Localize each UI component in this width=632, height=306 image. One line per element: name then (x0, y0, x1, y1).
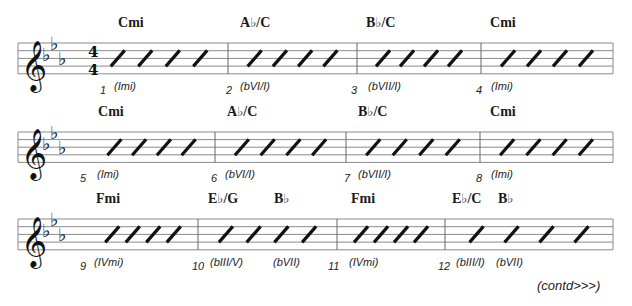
chord-symbol: Cmi (490, 104, 516, 119)
roman-numeral-analysis: (IVmi) (349, 256, 379, 268)
measure-number: 11 (328, 260, 339, 272)
measure-number: 12 (438, 260, 450, 272)
measure-9: Fmi9(IVmi) (80, 191, 181, 272)
chord-symbol: B♭/C (366, 15, 395, 30)
measure-8: Cmi8(Imi) (476, 104, 593, 184)
roman-numeral-analysis: (Imi) (97, 168, 119, 180)
chord-symbol: Cmi (490, 15, 516, 30)
measure-2: A♭/C2(bVI/I) (225, 15, 337, 96)
roman-numeral-analysis: (Imi) (114, 80, 136, 92)
measure-number: 4 (476, 84, 482, 96)
roman-numeral-analysis: (bVII) (273, 256, 300, 268)
chord-symbol: A♭/C (240, 15, 270, 30)
measure-1: Cmi1(Imi) (100, 15, 207, 96)
roman-numeral-analysis: (bVII/I) (368, 80, 401, 92)
roman-numeral-analysis: (bVII/I) (358, 168, 391, 180)
measure-7: B♭/C7(bVII/I) (344, 104, 460, 184)
roman-numeral-analysis: (bVI/I) (225, 168, 255, 180)
key-signature-flat-icon: ♭ (58, 137, 67, 158)
measure-11: Fmi11(IVmi) (328, 191, 428, 272)
time-signature-top: 4 (88, 43, 98, 61)
measure-number: 10 (192, 260, 205, 272)
roman-numeral-analysis: (Imi) (491, 168, 513, 180)
measure-number: 6 (211, 172, 218, 184)
measure-number: 2 (225, 84, 232, 96)
staff-system: 𝄞♭♭♭Fmi9(IVmi)E♭/GB♭10(bIII/V)(bVII)Fmi1… (18, 191, 613, 272)
chord-symbol: E♭/C (452, 191, 481, 206)
chord-symbol: Cmi (118, 15, 144, 30)
measure-number: 3 (351, 84, 358, 96)
flat-icon: ♭ (283, 191, 289, 206)
measure-number: 7 (344, 172, 351, 184)
time-signature-bottom: 4 (88, 61, 98, 79)
staff-systems: 𝄞♭♭♭44Cmi1(Imi)A♭/C2(bVI/I)B♭/C3(bVII/I)… (18, 15, 613, 272)
chord-symbol: Fmi (351, 191, 375, 206)
measure-12: E♭/CB♭12(bIII/I)(bVII) (438, 191, 589, 272)
measure-3: B♭/C3(bVII/I) (351, 15, 462, 96)
continued-label: (contd>>>) (537, 278, 600, 293)
chord-symbol: B♭ (274, 191, 289, 206)
measure-6: A♭/C6(bVI/I) (211, 104, 326, 184)
roman-numeral-analysis: (Imi) (491, 80, 513, 92)
roman-numeral-analysis: (bVII) (496, 256, 523, 268)
measure-number: 8 (476, 172, 483, 184)
measure-10: E♭/GB♭10(bIII/V)(bVII) (192, 191, 316, 272)
measure-number: 5 (80, 172, 87, 184)
flat-icon: ♭ (507, 191, 513, 206)
roman-numeral-analysis: (bIII/V) (210, 256, 243, 268)
roman-numeral-analysis: (bVI/I) (240, 80, 270, 92)
staff-system: 𝄞♭♭♭Cmi5(Imi)A♭/C6(bVI/I)B♭/C7(bVII/I)Cm… (18, 104, 613, 184)
roman-numeral-analysis: (bIII/I) (456, 256, 485, 268)
measure-4: Cmi4(Imi) (476, 15, 593, 96)
roman-numeral-analysis: (IVmi) (94, 256, 124, 268)
chord-symbol: E♭/G (208, 191, 238, 206)
measure-5: Cmi5(Imi) (80, 104, 196, 184)
staff-system: 𝄞♭♭♭44Cmi1(Imi)A♭/C2(bVI/I)B♭/C3(bVII/I)… (18, 15, 613, 96)
chord-symbol: B♭ (498, 191, 513, 206)
chord-symbol: Cmi (98, 104, 124, 119)
chord-symbol: A♭/C (227, 104, 257, 119)
chord-symbol: Fmi (96, 191, 120, 206)
key-signature-flat-icon: ♭ (58, 48, 67, 69)
lead-sheet-score: 𝄞♭♭♭44Cmi1(Imi)A♭/C2(bVI/I)B♭/C3(bVII/I)… (0, 0, 632, 306)
key-signature-flat-icon: ♭ (58, 224, 67, 245)
measure-number: 1 (100, 84, 106, 96)
chord-symbol: B♭/C (358, 104, 387, 119)
measure-number: 9 (80, 260, 86, 272)
